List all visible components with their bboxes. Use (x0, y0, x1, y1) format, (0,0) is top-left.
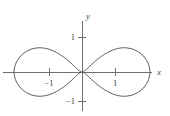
plot-svg: x y −1 1 1 −1 (0, 0, 170, 116)
y-axis-label: y (85, 11, 90, 21)
x-tick-label-one: 1 (113, 78, 117, 88)
x-axis-label: x (156, 67, 161, 77)
y-tick-label-one: 1 (71, 32, 75, 42)
figure-container: x y −1 1 1 −1 (0, 0, 170, 116)
x-tick-label-minus-one: −1 (44, 78, 53, 88)
y-tick-label-minus-one: −1 (66, 96, 75, 106)
